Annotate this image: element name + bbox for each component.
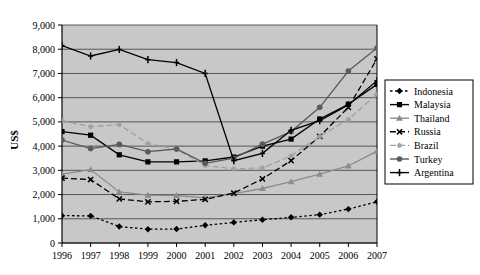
legend-label: Brazil (414, 140, 439, 151)
marker-circle (59, 137, 65, 143)
x-tick-label: 1997 (81, 250, 101, 261)
y-tick-label: 0 (50, 238, 55, 249)
marker-asterisk (374, 91, 379, 96)
marker-square (88, 133, 93, 138)
legend-label: Thailand (414, 113, 450, 124)
marker-circle (317, 105, 323, 111)
chart-legend: IndonesiaMalaysiaThailandRussiaBrazilTur… (385, 80, 473, 184)
marker-square (288, 136, 293, 141)
y-tick-label: 4,000 (33, 141, 56, 152)
marker-square (397, 102, 402, 107)
x-tick-label: 2002 (224, 250, 244, 261)
y-tick-label: 6,000 (33, 92, 56, 103)
legend-label: Turkey (414, 154, 443, 165)
y-tick-label: 3,000 (33, 165, 56, 176)
x-tick-label: 1998 (109, 250, 129, 261)
line-chart: 01,0002,0003,0004,0005,0006,0007,0008,00… (0, 0, 480, 275)
marker-circle (374, 45, 380, 51)
y-axis-title: US$ (8, 130, 20, 150)
x-tick-label: 2001 (195, 250, 215, 261)
plot-background (62, 25, 377, 243)
marker-square (145, 159, 150, 164)
marker-circle (174, 146, 180, 152)
marker-asterisk (145, 141, 150, 146)
marker-asterisk (231, 166, 236, 171)
marker-circle (202, 161, 208, 167)
marker-square (174, 159, 179, 164)
marker-circle (88, 146, 94, 152)
x-tick-label: 2004 (281, 250, 301, 261)
y-tick-label: 5,000 (33, 116, 56, 127)
marker-circle (346, 68, 352, 74)
legend-label: Russia (414, 126, 441, 137)
marker-circle (145, 149, 151, 155)
x-tick-label: 2007 (367, 250, 387, 261)
x-tick-label: 2000 (167, 250, 187, 261)
chart-container: 01,0002,0003,0004,0005,0006,0007,0008,00… (0, 0, 480, 275)
marker-circle (116, 142, 122, 148)
x-tick-label: 1999 (138, 250, 158, 261)
marker-asterisk (397, 143, 402, 148)
y-tick-label: 1,000 (33, 213, 56, 224)
x-tick-label: 2005 (310, 250, 330, 261)
legend-label: Malaysia (414, 99, 451, 110)
marker-circle (397, 156, 403, 162)
y-tick-label: 9,000 (33, 20, 56, 31)
marker-asterisk (346, 117, 351, 122)
marker-circle (260, 141, 266, 147)
marker-asterisk (117, 122, 122, 127)
y-tick-label: 8,000 (33, 44, 56, 55)
y-tick-label: 7,000 (33, 68, 56, 79)
marker-asterisk (288, 153, 293, 158)
x-tick-label: 1996 (52, 250, 72, 261)
legend-label: Argentina (414, 167, 454, 178)
marker-square (59, 129, 64, 134)
legend-label: Indonesia (414, 86, 453, 97)
y-tick-label: 2,000 (33, 189, 56, 200)
marker-square (117, 152, 122, 157)
x-tick-label: 2003 (252, 250, 272, 261)
x-tick-label: 2006 (338, 250, 358, 261)
marker-asterisk (260, 165, 265, 170)
